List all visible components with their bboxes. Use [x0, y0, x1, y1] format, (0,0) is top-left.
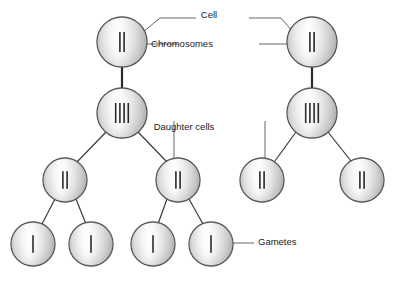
- cell-connection-line: [158, 199, 167, 224]
- cell-gamete-2: [69, 222, 113, 266]
- cell-daughter-2: [156, 158, 200, 202]
- cell-shading: [240, 158, 284, 202]
- cell-shading: [97, 88, 147, 138]
- cell-connection-line: [328, 132, 351, 161]
- cell-connection-line: [138, 132, 167, 162]
- label-daughter_cells: Daughter cells: [154, 121, 215, 132]
- cell-parent-left: [97, 17, 147, 67]
- cell-connection-line: [189, 199, 203, 224]
- label-gametes: Gametes: [258, 236, 297, 247]
- label-chromosomes: Chromosomes: [151, 38, 213, 49]
- label-cell: Cell: [201, 9, 217, 20]
- cell-daughter-1: [43, 158, 87, 202]
- cell-shading: [43, 158, 87, 202]
- cell-connection-line: [77, 132, 106, 162]
- cell-daughter-3: [240, 158, 284, 202]
- cell-shading: [97, 17, 147, 67]
- cell-daughter-4: [340, 158, 384, 202]
- cell-parent-right: [287, 17, 337, 67]
- cell-shading: [287, 88, 337, 138]
- cell-shading: [287, 17, 337, 67]
- cell-replicated-left: [97, 88, 147, 138]
- diagram-canvas: CellChromosomesDaughter cellsGametes: [0, 0, 397, 286]
- cell-gamete-1: [11, 222, 55, 266]
- label-leader-line: [249, 18, 293, 32]
- cell-connection-line: [76, 199, 86, 224]
- cell-replicated-right: [287, 88, 337, 138]
- meiosis-diagram: CellChromosomesDaughter cellsGametes: [0, 0, 397, 286]
- cells-layer: [11, 17, 384, 266]
- cell-connection-line: [42, 199, 55, 224]
- cell-shading: [340, 158, 384, 202]
- cell-connection-line: [275, 132, 296, 161]
- cell-gamete-4: [189, 222, 233, 266]
- label-leader-line: [143, 18, 196, 32]
- cell-gamete-3: [131, 222, 175, 266]
- cell-shading: [156, 158, 200, 202]
